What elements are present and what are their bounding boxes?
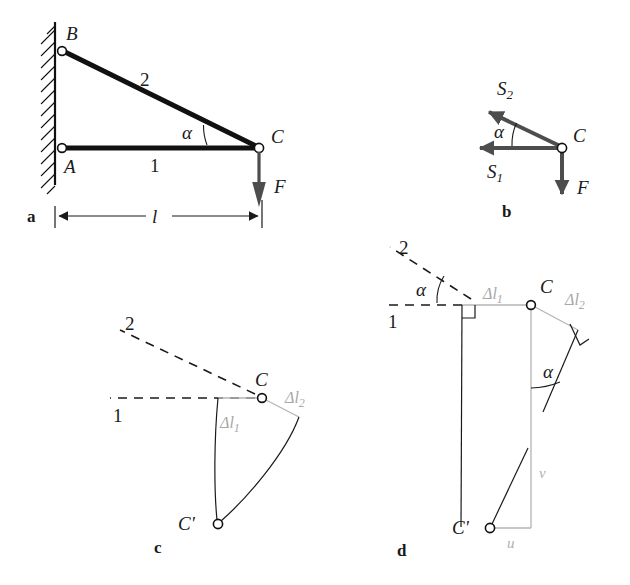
wall-support — [41, 22, 55, 194]
dimension-span-l: l — [55, 200, 262, 228]
bar-label-1: 1 — [150, 155, 160, 176]
bar-1-axis-label: 1 — [388, 311, 398, 332]
node-label-C: C — [540, 276, 553, 297]
node-label-C: C — [271, 126, 284, 147]
panel-b: S2 S1 F C α b — [480, 78, 589, 221]
panel-a: B A C 2 1 α F l a — [27, 22, 286, 228]
angle-label-alpha: α — [494, 121, 505, 142]
node-label-C-prime: C' — [452, 517, 470, 538]
angle-label-alpha-right: α — [543, 361, 554, 382]
wall-hatching — [41, 26, 55, 194]
node-C — [527, 301, 536, 310]
panel-label-c: c — [154, 538, 162, 557]
angle-label-alpha-top: α — [416, 279, 427, 300]
bar-label-2: 2 — [140, 69, 150, 90]
elongation-label-delta-l1: Δl1 — [219, 414, 240, 435]
bar-1-axis-label: 1 — [113, 405, 123, 426]
bar-2-member — [63, 51, 258, 147]
dimension-label-l: l — [152, 206, 157, 227]
force-label-F: F — [273, 176, 286, 197]
node-C — [258, 394, 267, 403]
joint-C-node — [557, 143, 566, 152]
elongation-label-delta-l1: Δl1 — [482, 285, 503, 306]
right-angle-mark-bar-1 — [462, 305, 475, 318]
elongation-label-delta-l2: Δl2 — [564, 291, 585, 312]
arc-from-bar-2 — [221, 417, 299, 521]
component-label-u: u — [507, 535, 515, 551]
bar-2-axis-dashed — [120, 330, 255, 394]
panel-label-d: d — [397, 541, 407, 560]
vector-label-F: F — [576, 177, 589, 198]
force-F-arrow — [252, 152, 266, 207]
angle-arc-alpha — [203, 125, 207, 145]
pin-joint-A — [58, 144, 67, 153]
arc-from-bar-1 — [215, 398, 218, 520]
vector-label-S1: S1 — [487, 161, 503, 185]
figure-canvas: B A C 2 1 α F l a — [0, 0, 630, 585]
pin-joint-B — [58, 47, 67, 56]
node-C-prime — [213, 519, 222, 528]
node-label-C-prime: C' — [178, 513, 196, 534]
node-label-A: A — [62, 156, 76, 177]
panel-label-a: a — [27, 207, 36, 226]
bar-2-axis-label: 2 — [125, 313, 135, 334]
panel-label-b: b — [502, 202, 511, 221]
pin-joint-C — [254, 143, 263, 152]
bar-2-axis-label: 2 — [399, 237, 409, 258]
diagonal-construction-line — [492, 448, 528, 524]
panel-c: 2 1 C C' Δl1 Δl2 c — [110, 313, 305, 557]
angle-label-alpha: α — [182, 122, 193, 143]
node-label-C: C — [255, 369, 268, 390]
node-label-B: B — [66, 23, 78, 44]
mechanics-figure: B A C 2 1 α F l a — [0, 0, 630, 585]
node-C-prime — [485, 523, 494, 532]
vector-label-S2: S2 — [497, 78, 514, 102]
panel-d: 2 1 α α — [385, 237, 589, 560]
perpendicular-from-bar-1 — [461, 305, 462, 527]
elongation-label-delta-l2: Δl2 — [284, 389, 305, 410]
component-label-v: v — [539, 465, 546, 481]
node-label-C: C — [573, 125, 586, 146]
